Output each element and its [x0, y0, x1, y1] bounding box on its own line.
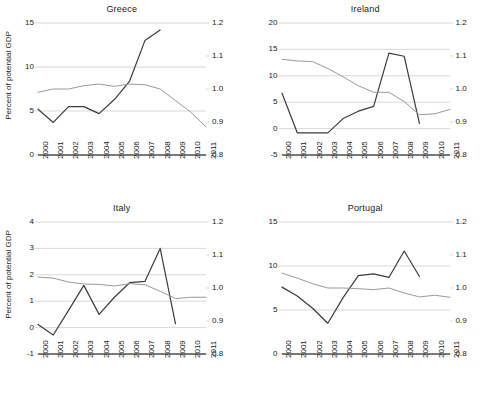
x-tick-2001: 2001 [300, 141, 308, 159]
plot-area [244, 0, 487, 199]
chart-panel-ireland: Ireland-5051015200.80.91.01.11.220002001… [244, 0, 487, 199]
x-tick-2004: 2004 [103, 340, 111, 358]
x-tick-2001: 2001 [300, 340, 308, 358]
y-tick-right: 0.9 [456, 118, 467, 126]
x-tick-2008: 2008 [407, 340, 415, 358]
x-tick-2008: 2008 [164, 141, 172, 159]
x-tick-2009: 2009 [422, 141, 430, 159]
y-tick-left: 15 [252, 218, 278, 226]
x-tick-2002: 2002 [316, 340, 324, 358]
x-tick-2007: 2007 [392, 340, 400, 358]
x-tick-2007: 2007 [392, 141, 400, 159]
y-tick-left: 10 [8, 63, 34, 71]
y-tick-left: 10 [252, 262, 278, 270]
x-tick-2011: 2011 [210, 341, 218, 358]
y-tick-left: 15 [8, 19, 34, 27]
y-tick-right: 1.2 [212, 218, 223, 226]
y-tick-right: 1.1 [456, 251, 467, 259]
y-tick-left: 0 [252, 350, 278, 358]
plot-area [0, 0, 244, 199]
x-tick-2004: 2004 [103, 141, 111, 159]
y-tick-left: 1 [8, 297, 34, 305]
x-tick-2006: 2006 [133, 340, 141, 358]
y-tick-right: 0.9 [212, 317, 223, 325]
x-tick-2000: 2000 [42, 141, 50, 159]
y-tick-right: 1.0 [212, 85, 223, 93]
y-tick-left: 5 [8, 107, 34, 115]
x-tick-2001: 2001 [57, 141, 65, 159]
x-tick-2008: 2008 [407, 141, 415, 159]
x-tick-2003: 2003 [87, 340, 95, 358]
x-tick-2003: 2003 [87, 141, 95, 159]
series-line-secondary-right-axis [38, 277, 206, 298]
y-tick-right: 1.0 [456, 284, 467, 292]
x-tick-2000: 2000 [42, 340, 50, 358]
x-tick-2007: 2007 [148, 340, 156, 358]
x-tick-2006: 2006 [377, 141, 385, 159]
y-tick-left: -5 [252, 151, 278, 159]
x-tick-2010: 2010 [438, 141, 446, 159]
x-tick-2010: 2010 [194, 141, 202, 159]
series-line-secondary-right-axis [282, 59, 450, 114]
chart-panel-italy: ItalyPercent of potential GDP-1012340.80… [0, 199, 244, 398]
y-tick-left: 2 [8, 271, 34, 279]
y-tick-left: 0 [8, 324, 34, 332]
plot-area [244, 199, 487, 398]
x-tick-2010: 2010 [194, 340, 202, 358]
x-tick-2005: 2005 [361, 340, 369, 358]
x-tick-2002: 2002 [72, 340, 80, 358]
x-tick-2003: 2003 [331, 141, 339, 159]
x-tick-2002: 2002 [316, 141, 324, 159]
x-tick-2009: 2009 [422, 340, 430, 358]
y-tick-right: 0.9 [456, 317, 467, 325]
x-tick-2006: 2006 [133, 141, 141, 159]
y-tick-left: -1 [8, 350, 34, 358]
x-tick-2007: 2007 [148, 141, 156, 159]
series-line-primary-left-axis [38, 248, 175, 335]
x-tick-2005: 2005 [118, 340, 126, 358]
x-tick-2006: 2006 [377, 340, 385, 358]
x-tick-2005: 2005 [118, 141, 126, 159]
x-tick-2004: 2004 [346, 141, 354, 159]
y-tick-right: 1.0 [212, 284, 223, 292]
y-tick-left: 5 [252, 98, 278, 106]
y-tick-right: 1.2 [456, 19, 467, 27]
x-tick-2001: 2001 [57, 340, 65, 358]
x-tick-2011: 2011 [210, 142, 218, 159]
x-tick-2009: 2009 [179, 141, 187, 159]
chart-panel-greece: GreecePercent of potential GDP0510150.80… [0, 0, 244, 199]
y-tick-right: 0.9 [212, 118, 223, 126]
x-tick-2000: 2000 [285, 141, 293, 159]
x-tick-2011: 2011 [453, 341, 461, 358]
chart-panel-portugal: Portugal0510150.80.91.01.11.220002001200… [244, 199, 487, 398]
y-tick-right: 1.1 [212, 251, 223, 259]
x-tick-2000: 2000 [285, 340, 293, 358]
x-tick-2004: 2004 [346, 340, 354, 358]
x-tick-2005: 2005 [361, 141, 369, 159]
series-line-primary-left-axis [38, 30, 160, 122]
y-tick-right: 1.1 [212, 52, 223, 60]
x-tick-2010: 2010 [438, 340, 446, 358]
y-tick-right: 1.2 [212, 19, 223, 27]
y-tick-left: 20 [252, 19, 278, 27]
y-tick-left: 3 [8, 244, 34, 252]
figure-panel-grid: GreecePercent of potential GDP0510150.80… [0, 0, 487, 398]
y-tick-right: 1.0 [456, 85, 467, 93]
y-tick-left: 10 [252, 72, 278, 80]
x-tick-2011: 2011 [453, 142, 461, 159]
series-line-secondary-right-axis [282, 273, 450, 297]
x-tick-2009: 2009 [179, 340, 187, 358]
y-tick-right: 1.1 [456, 52, 467, 60]
x-tick-2008: 2008 [164, 340, 172, 358]
y-tick-left: 4 [8, 218, 34, 226]
y-tick-left: 15 [252, 45, 278, 53]
y-tick-left: 0 [8, 151, 34, 159]
x-tick-2002: 2002 [72, 141, 80, 159]
plot-area [0, 199, 244, 398]
y-tick-right: 1.2 [456, 218, 467, 226]
series-line-primary-left-axis [282, 251, 419, 323]
y-tick-left: 0 [252, 125, 278, 133]
series-line-primary-left-axis [282, 53, 419, 133]
x-tick-2003: 2003 [331, 340, 339, 358]
y-tick-left: 5 [252, 306, 278, 314]
